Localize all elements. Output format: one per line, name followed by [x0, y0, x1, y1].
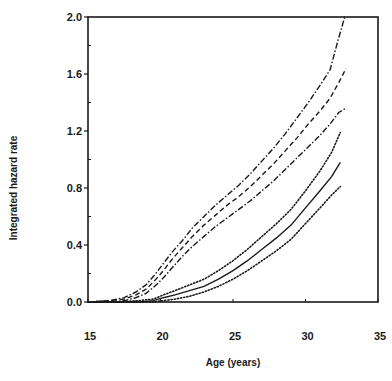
- series-layer: [88, 17, 346, 302]
- hazard-rate-chart: 0.00.40.81.21.62.0 1520253035 Age (years…: [0, 0, 392, 381]
- x-tick-label: 20: [156, 330, 168, 342]
- series-line-group-b-estimate: [88, 162, 340, 302]
- y-tick-label: 1.6: [67, 68, 82, 80]
- y-tick-label: 1.2: [67, 125, 82, 137]
- y-axis-title: Integrated hazard rate: [8, 135, 19, 240]
- y-tick-label: 2.0: [67, 11, 82, 23]
- x-tick-label: 25: [229, 330, 241, 342]
- y-tick-label: 0.0: [67, 296, 82, 308]
- x-axis-title: Age (years): [206, 357, 260, 368]
- series-line-group-b-upper-bound: [88, 132, 340, 302]
- series-line-group-a-estimate: [88, 68, 346, 302]
- y-tick-label: 0.8: [67, 182, 82, 194]
- plot-border: [88, 17, 378, 302]
- x-tick-label: 35: [374, 330, 386, 342]
- plot-frame: [88, 17, 378, 302]
- series-line-group-a-upper-bound: [88, 17, 345, 302]
- series-line-group-b-lower-bound: [88, 187, 340, 302]
- x-tick-label: 15: [84, 330, 96, 342]
- x-axis: 1520253035: [84, 299, 386, 342]
- x-tick-label: 30: [301, 330, 313, 342]
- y-tick-label: 0.4: [67, 239, 83, 251]
